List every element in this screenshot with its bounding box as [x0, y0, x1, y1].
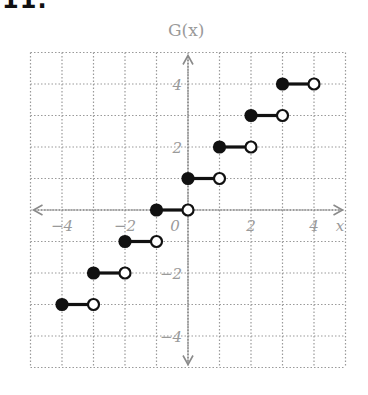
open-dot-icon	[120, 268, 131, 279]
step-segment	[151, 205, 194, 216]
x-tick-label: −2	[114, 217, 136, 235]
open-dot-icon	[246, 142, 257, 153]
open-dot-icon	[309, 79, 320, 90]
y-tick-label: 2	[171, 139, 182, 157]
closed-dot-icon	[246, 110, 257, 121]
closed-dot-icon	[151, 205, 162, 216]
open-dot-icon	[88, 299, 99, 310]
y-tick-label: −4	[160, 328, 182, 346]
x-tick-label: 4	[308, 217, 319, 235]
x-axis-title: x	[336, 217, 345, 235]
step-segment	[57, 299, 100, 310]
closed-dot-icon	[214, 142, 225, 153]
x-tick-label: 2	[245, 217, 256, 235]
x-tick-label: −4	[51, 217, 73, 235]
step-segment	[246, 110, 289, 121]
step-segment	[120, 236, 163, 247]
step-segment	[277, 79, 320, 90]
y-tick-label: 4	[171, 76, 182, 94]
open-dot-icon	[183, 205, 194, 216]
closed-dot-icon	[57, 299, 68, 310]
step-function-chart: −4−2024x42−2−4	[0, 0, 368, 395]
step-segment	[183, 173, 226, 184]
open-dot-icon	[214, 173, 225, 184]
y-tick-label: −2	[160, 265, 182, 283]
closed-dot-icon	[277, 79, 288, 90]
closed-dot-icon	[183, 173, 194, 184]
closed-dot-icon	[120, 236, 131, 247]
step-segment	[88, 268, 131, 279]
step-segment	[214, 142, 257, 153]
x-tick-label: 0	[170, 217, 180, 235]
closed-dot-icon	[88, 268, 99, 279]
open-dot-icon	[151, 236, 162, 247]
open-dot-icon	[277, 110, 288, 121]
